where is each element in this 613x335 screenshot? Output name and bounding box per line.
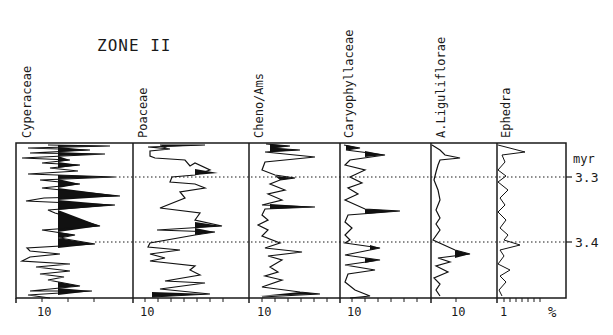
x-tick-ephedra: 1 — [500, 305, 507, 319]
x-tick-cheno-ams: 10 — [257, 305, 271, 319]
series-poaceae — [148, 145, 222, 297]
x-tick-cyperaceae: 10 — [37, 305, 51, 319]
y-axis-unit: myr — [573, 152, 595, 166]
y-tick-3-3: 3.3 — [575, 170, 598, 185]
x-tick-poaceae: 10 — [140, 305, 154, 319]
percent-unit: % — [548, 304, 556, 320]
plot-frame — [16, 143, 566, 298]
x-tick-caryophyllaceae: 10 — [347, 305, 361, 319]
series-cheno-ams — [258, 144, 320, 297]
y-tick-3-4: 3.4 — [575, 235, 598, 250]
series-ephedra — [498, 145, 525, 296]
x-tick-a-liguliflorae: 10 — [451, 305, 465, 319]
pollen-diagram — [0, 0, 613, 335]
series-caryophyllaceae — [344, 145, 400, 298]
reference-lines — [95, 177, 566, 242]
series-a-liguliflorae — [432, 145, 470, 296]
series-cyperaceae — [22, 145, 120, 298]
